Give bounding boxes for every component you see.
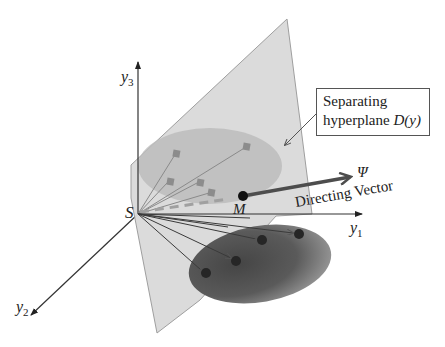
hyperplane-callout-box: Separating hyperplane D(y) <box>316 88 430 136</box>
callout-line-1: Separating <box>323 92 423 111</box>
axis-y2 <box>31 214 138 315</box>
callout-math-dy: D(y) <box>393 112 420 128</box>
label-psi: Ψ <box>357 164 369 180</box>
label-y3: y3 <box>119 68 134 88</box>
mean-point-m <box>238 191 248 201</box>
label-y2: y2 <box>14 298 29 318</box>
label-directing-vector: Directing Vector <box>294 177 395 210</box>
callout-line-2: hyperplane D(y) <box>323 111 423 130</box>
label-y1: y1 <box>348 219 363 239</box>
label-m: M <box>232 201 247 217</box>
label-origin-s: S <box>125 203 134 222</box>
separating-hyperplane-diagram: S M y3 y1 y2 Ψ Directing Vector Separati… <box>0 0 445 347</box>
